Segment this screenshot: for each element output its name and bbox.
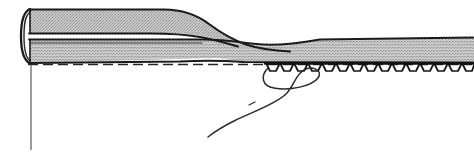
- hem-cross-section-drawing: [0, 0, 474, 155]
- figure-container: Cross-section line drawing of a folded f…: [0, 0, 474, 155]
